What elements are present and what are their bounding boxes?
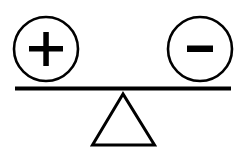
minus-circle-icon [168, 17, 232, 81]
plus-circle-icon [14, 17, 78, 81]
balance-diagram: Balance of positive and negative + − [0, 0, 242, 159]
balance-scale-graphic [0, 0, 242, 159]
seesaw-beam [15, 87, 231, 91]
fulcrum-triangle-icon [93, 94, 155, 145]
